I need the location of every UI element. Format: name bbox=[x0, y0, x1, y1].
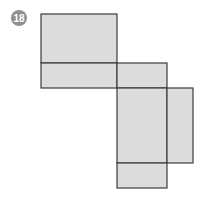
net-face-top-left-large bbox=[41, 14, 117, 63]
prism-net-diagram bbox=[0, 0, 209, 198]
net-face-center-large bbox=[117, 88, 167, 163]
net-face-top-left-strip bbox=[41, 63, 117, 88]
net-face-bottom-small bbox=[117, 163, 167, 188]
net-face-right-flap bbox=[167, 88, 193, 163]
net-face-middle-small bbox=[117, 63, 167, 88]
